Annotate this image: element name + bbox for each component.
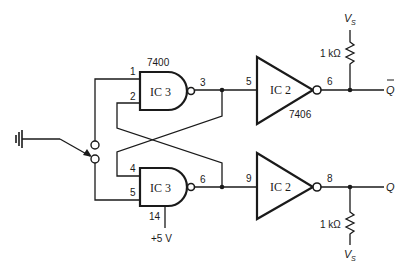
junction-top xyxy=(220,88,225,93)
ground-icon xyxy=(16,130,22,148)
nand-gate-bottom: IC 3 4 5 6 14 +5 V xyxy=(130,163,206,244)
svg-text:IC 3: IC 3 xyxy=(150,181,171,195)
switch-arm[interactable] xyxy=(22,139,92,157)
svg-text:6: 6 xyxy=(327,76,333,87)
svg-text:S: S xyxy=(351,19,356,26)
svg-text:1 kΩ: 1 kΩ xyxy=(320,48,341,59)
svg-text:6: 6 xyxy=(200,174,206,185)
inverter-top: IC 2 7406 5 6 xyxy=(246,57,333,124)
switch-contact-upper xyxy=(91,141,99,149)
svg-text:5: 5 xyxy=(246,76,252,87)
resistor-top: 1 kΩ V S xyxy=(320,12,356,90)
svg-text:Q: Q xyxy=(386,84,395,96)
svg-text:9: 9 xyxy=(246,173,252,184)
output-q-bar: Q xyxy=(386,80,395,96)
svg-text:2: 2 xyxy=(130,91,136,102)
nand-gate-top: IC 3 7400 1 2 3 xyxy=(130,57,206,110)
svg-text:IC 3: IC 3 xyxy=(150,85,171,99)
svg-text:Q: Q xyxy=(386,181,395,193)
svg-text:1 kΩ: 1 kΩ xyxy=(320,219,341,230)
switch-contact-lower xyxy=(91,155,99,163)
output-q: Q xyxy=(386,181,395,193)
svg-text:8: 8 xyxy=(327,173,333,184)
svg-text:IC 2: IC 2 xyxy=(270,83,291,97)
svg-text:3: 3 xyxy=(200,77,206,88)
svg-text:7406: 7406 xyxy=(289,109,312,120)
circuit-schematic: IC 3 7400 1 2 3 IC 3 4 5 6 14 +5 V IC 2 … xyxy=(0,0,407,275)
svg-text:5: 5 xyxy=(130,187,136,198)
switch-arrow-icon xyxy=(83,149,92,157)
svg-text:S: S xyxy=(351,255,356,262)
svg-text:+5 V: +5 V xyxy=(151,233,172,244)
resistor-bottom: 1 kΩ V S xyxy=(320,187,356,262)
svg-text:1: 1 xyxy=(130,66,136,77)
svg-text:7400: 7400 xyxy=(147,57,170,68)
svg-text:4: 4 xyxy=(130,163,136,174)
inverter-bottom: IC 2 9 8 xyxy=(246,153,333,219)
junction-bottom xyxy=(220,185,225,190)
svg-text:IC 2: IC 2 xyxy=(270,180,291,194)
svg-text:14: 14 xyxy=(149,211,161,222)
